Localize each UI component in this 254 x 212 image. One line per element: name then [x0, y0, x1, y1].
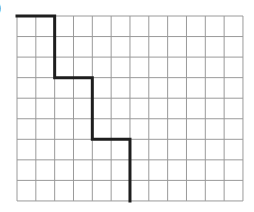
grid-diagram: [0, 0, 254, 212]
